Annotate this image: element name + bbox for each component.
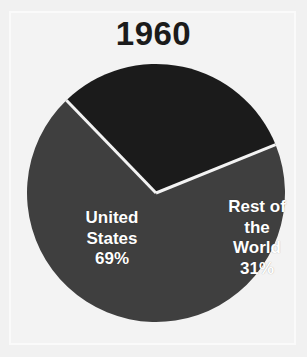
chart-title: 1960 (0, 17, 307, 50)
pie-svg (26, 63, 286, 323)
pie-chart-figure: 1960 United States 69% Rest of the World… (0, 0, 307, 357)
pie-chart-plot-area: United States 69% Rest of the World 31% (26, 63, 286, 323)
